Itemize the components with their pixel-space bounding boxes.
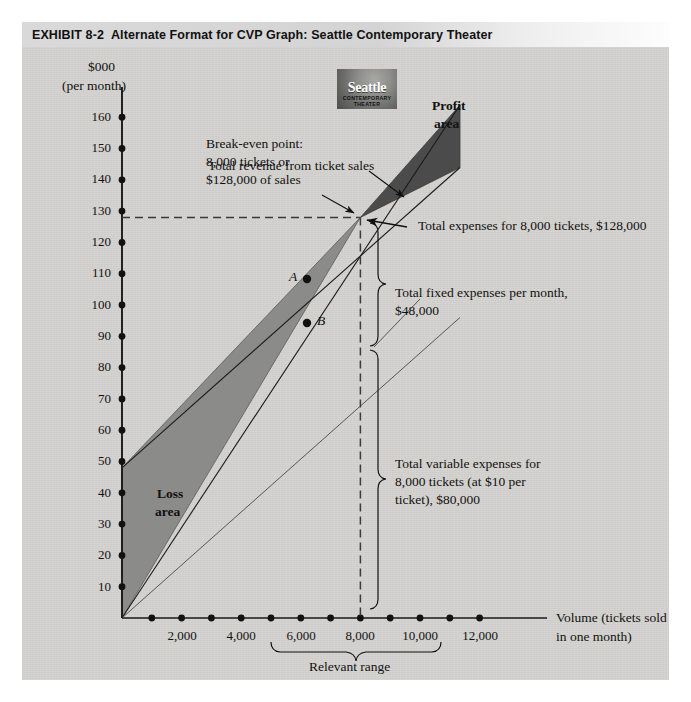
- loss-area-label-line1: Loss: [157, 485, 183, 502]
- y-tick-label-50: 50: [77, 453, 111, 469]
- y-tick-label-30: 30: [77, 516, 111, 532]
- cvp-plot-svg: [22, 47, 669, 680]
- chart-canvas: $000 (per month) 160 150 140 130 120 110…: [22, 47, 669, 680]
- variable-expenses-brace: [370, 350, 386, 609]
- exhibit-title: Alternate Format for CVP Graph: Seattle …: [111, 28, 493, 42]
- logo-wordmark: Seattle: [337, 81, 397, 95]
- x-tick-label-10000: 10,000: [390, 628, 450, 644]
- exhibit-figure: EXHIBIT 8-2Alternate Format for CVP Grap…: [0, 0, 691, 702]
- y-tick-label-70: 70: [77, 391, 111, 407]
- x-tick-label-8000: 8,000: [330, 628, 390, 644]
- point-b-label: B: [317, 313, 325, 329]
- y-tick-label-10: 10: [77, 579, 111, 595]
- y-tick-label-90: 90: [77, 328, 111, 344]
- logo-subtitle: CONTEMPORARY THEATER: [337, 95, 397, 107]
- fixed-expenses-brace: [370, 223, 386, 346]
- logo-subtitle-line2: THEATER: [354, 101, 381, 107]
- logo-subtitle-line1: CONTEMPORARY: [343, 95, 392, 101]
- y-tick-label-60: 60: [77, 422, 111, 438]
- breakeven-label-line2: 8,000 tickets or: [206, 153, 290, 170]
- point-a-label: A: [289, 269, 297, 285]
- breakeven-label-line1: Break-even point:: [206, 135, 303, 152]
- loss-area-label-line2: area: [155, 503, 180, 520]
- x-tick-label-4000: 4,000: [211, 628, 271, 644]
- exhibit-title-text: EXHIBIT 8-2Alternate Format for CVP Grap…: [22, 28, 493, 42]
- y-tick-label-100: 100: [77, 297, 111, 313]
- y-tick-label-160: 160: [77, 109, 111, 125]
- y-tick-label-150: 150: [77, 140, 111, 156]
- y-tick-label-20: 20: [77, 547, 111, 563]
- variable-expenses-label-line3: ticket), $80,000: [395, 491, 480, 508]
- x-axis-title-line1: Volume (tickets sold: [556, 610, 667, 626]
- y-tick-label-80: 80: [77, 359, 111, 375]
- y-tick-label-130: 130: [77, 203, 111, 219]
- x-axis-title-line2: in one month): [556, 629, 632, 645]
- y-tick-label-40: 40: [77, 485, 111, 501]
- relevant-range-label: Relevant range: [309, 659, 390, 675]
- y-tick-label-110: 110: [77, 265, 111, 281]
- data-point-a: [303, 275, 311, 283]
- x-tick-label-2000: 2,000: [152, 628, 212, 644]
- profit-area-label-line1: Profit: [432, 97, 466, 114]
- y-tick-label-140: 140: [77, 171, 111, 187]
- loss-area-shape: [122, 217, 360, 618]
- profit-area-label-line2: area: [434, 115, 459, 132]
- x-tick-label-12000: 12,000: [450, 628, 510, 644]
- total-expenses-label: Total expenses for 8,000 tickets, $128,0…: [418, 217, 647, 234]
- breakeven-label-line3: $128,000 of sales: [206, 171, 301, 188]
- data-point-b: [303, 319, 311, 327]
- y-axis-title-line2: (per month): [62, 78, 126, 94]
- seattle-contemporary-theater-logo: Seattle CONTEMPORARY THEATER: [337, 69, 397, 109]
- breakeven-label-arrow: [322, 195, 354, 213]
- y-axis-title-line1: $000: [88, 59, 115, 75]
- y-tick-label-120: 120: [77, 234, 111, 250]
- variable-expenses-label-line2: 8,000 tickets (at $10 per: [395, 473, 526, 490]
- fixed-expenses-label-line1: Total fixed expenses per month,: [395, 284, 568, 301]
- exhibit-title-bar: EXHIBIT 8-2Alternate Format for CVP Grap…: [22, 22, 669, 47]
- exhibit-number: EXHIBIT 8-2: [32, 28, 104, 42]
- x-tick-label-6000: 6,000: [271, 628, 331, 644]
- fixed-expenses-label-line2: $48,000: [395, 302, 439, 319]
- variable-expenses-label-line1: Total variable expenses for: [395, 455, 541, 472]
